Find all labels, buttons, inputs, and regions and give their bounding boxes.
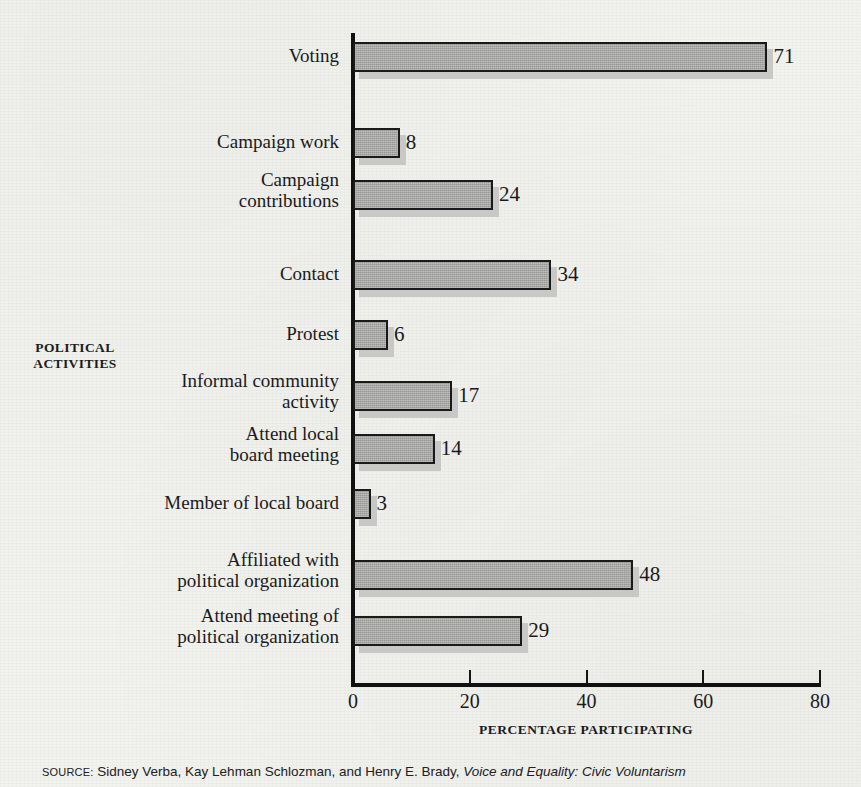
bar-value-label: 34 bbox=[557, 262, 578, 287]
bar-chart: POLITICAL ACTIVITIES Voting71Campaign wo… bbox=[0, 0, 861, 787]
source-title: Voice and Equality: Civic Voluntarism bbox=[463, 764, 686, 779]
y-axis-title-line2: ACTIVITIES bbox=[33, 356, 117, 371]
bar-row-label-line1: Affiliated with bbox=[0, 549, 339, 570]
source-authors: Sidney Verba, Kay Lehman Schlozman, and … bbox=[94, 764, 464, 779]
bar[interactable] bbox=[353, 42, 767, 72]
bar-row: Attend meeting ofpolitical organization2… bbox=[0, 616, 861, 646]
bar-value-label: 17 bbox=[458, 383, 479, 408]
bar[interactable] bbox=[353, 320, 388, 350]
bar-value-label: 3 bbox=[377, 491, 388, 516]
bar-row: Campaigncontributions24 bbox=[0, 180, 861, 210]
bar-row-label: Campaign work bbox=[0, 131, 353, 152]
bar-row-label: Voting bbox=[0, 45, 353, 66]
bar[interactable] bbox=[353, 381, 452, 411]
bar-row-label-line1: Contact bbox=[0, 263, 339, 284]
bar-row-label: Attend meeting ofpolitical organization bbox=[0, 605, 353, 647]
bar-row: Attend localboard meeting14 bbox=[0, 434, 861, 464]
bar-row-label: Protest bbox=[0, 323, 353, 344]
bar-row-label: Affiliated withpolitical organization bbox=[0, 549, 353, 591]
source-kicker: SOURCE: bbox=[42, 766, 94, 778]
x-tick-label: 40 bbox=[557, 690, 617, 713]
bar[interactable] bbox=[353, 180, 493, 210]
bar-row-label: Member of local board bbox=[0, 492, 353, 513]
bar-row: Campaign work8 bbox=[0, 128, 861, 158]
bar-row: Informal communityactivity17 bbox=[0, 381, 861, 411]
bar[interactable] bbox=[353, 434, 435, 464]
bar-row-label-line1: Campaign bbox=[0, 169, 339, 190]
bar-row-label-line2: political organization bbox=[0, 570, 339, 591]
bar-row-label-line1: Member of local board bbox=[0, 492, 339, 513]
bar-row-label-line1: Campaign work bbox=[0, 131, 339, 152]
bar-row-label-line1: Attend meeting of bbox=[0, 605, 339, 626]
bar[interactable] bbox=[353, 616, 522, 646]
x-axis-title: PERCENTAGE PARTICIPATING bbox=[351, 722, 821, 738]
bar[interactable] bbox=[353, 128, 400, 158]
bar-row: Affiliated withpolitical organization48 bbox=[0, 560, 861, 590]
bar-row-label-line2: activity bbox=[0, 391, 339, 412]
x-tick-label: 60 bbox=[673, 690, 733, 713]
x-tick bbox=[819, 670, 821, 684]
bar-row-label-line1: Voting bbox=[0, 45, 339, 66]
source-note: SOURCE: Sidney Verba, Kay Lehman Schlozm… bbox=[42, 764, 852, 779]
x-tick-label: 0 bbox=[323, 690, 383, 713]
bar-value-label: 8 bbox=[406, 130, 417, 155]
bar-row-label: Contact bbox=[0, 263, 353, 284]
bar-value-label: 6 bbox=[394, 322, 405, 347]
bar-value-label: 14 bbox=[441, 436, 462, 461]
x-tick bbox=[586, 670, 588, 684]
x-tick bbox=[469, 670, 471, 684]
bar-row-label-line1: Informal community bbox=[0, 370, 339, 391]
bar-row: Voting71 bbox=[0, 42, 861, 72]
bar-row-label-line1: Protest bbox=[0, 323, 339, 344]
bar-row: Member of local board3 bbox=[0, 489, 861, 519]
bar-row-label-line2: political organization bbox=[0, 626, 339, 647]
bar-row-label-line1: Attend local bbox=[0, 423, 339, 444]
x-tick-label: 20 bbox=[440, 690, 500, 713]
bar-row-label: Attend localboard meeting bbox=[0, 423, 353, 465]
bar[interactable] bbox=[353, 260, 551, 290]
bar-row: Contact34 bbox=[0, 260, 861, 290]
bar[interactable] bbox=[353, 560, 633, 590]
bar[interactable] bbox=[353, 489, 371, 519]
bar-row-label-line2: contributions bbox=[0, 190, 339, 211]
bar-row-label: Informal communityactivity bbox=[0, 370, 353, 412]
bar-row-label-line2: board meeting bbox=[0, 444, 339, 465]
bar-row-label: Campaigncontributions bbox=[0, 169, 353, 211]
x-tick bbox=[702, 670, 704, 684]
figure-page: POLITICAL ACTIVITIES Voting71Campaign wo… bbox=[0, 0, 861, 787]
x-tick-label: 80 bbox=[790, 690, 850, 713]
bar-value-label: 71 bbox=[773, 44, 794, 69]
bar-value-label: 24 bbox=[499, 182, 520, 207]
bar-value-label: 48 bbox=[639, 562, 660, 587]
bar-row: Protest6 bbox=[0, 320, 861, 350]
bar-value-label: 29 bbox=[528, 618, 549, 643]
